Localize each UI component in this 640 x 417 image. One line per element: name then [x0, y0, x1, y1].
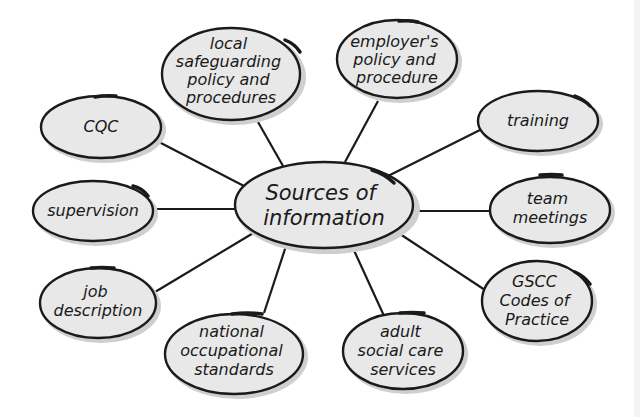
edge-cqc — [157, 141, 244, 186]
center-node: Sources of information — [235, 162, 420, 254]
edge-training — [388, 130, 480, 176]
node-national-occupational: national occupational standards — [165, 313, 308, 399]
edge-gscc-codes — [400, 234, 485, 290]
node-job-description: job description — [40, 268, 161, 344]
node-team-meetings: team meetings — [490, 175, 615, 249]
edge-national-occupational — [264, 246, 286, 313]
label-supervision: supervision — [47, 201, 139, 220]
node-cqc: CQC — [41, 96, 166, 163]
node-employers-policy: employer's policy and procedure — [337, 20, 462, 103]
node-adult-social-care: adult social care services — [343, 313, 468, 395]
edge-job-description — [155, 232, 255, 292]
label-training: training — [507, 111, 569, 130]
node-training: training — [478, 91, 603, 156]
label-employers-policy: employer's policy and procedure — [350, 32, 444, 87]
center-label: Sources of information — [263, 181, 385, 230]
node-supervision: supervision — [33, 181, 158, 246]
edge-employers-policy — [345, 101, 378, 162]
mind-map: Sources of information local safeguardin… — [0, 0, 640, 417]
node-gscc-codes: GSCC Codes of Practice — [482, 261, 597, 346]
edge-local-safeguarding — [258, 122, 283, 166]
label-cqc: CQC — [84, 117, 120, 136]
node-local-safeguarding: local safeguarding policy and procedures — [162, 28, 306, 125]
edge-adult-social-care — [352, 246, 385, 318]
